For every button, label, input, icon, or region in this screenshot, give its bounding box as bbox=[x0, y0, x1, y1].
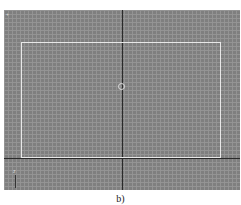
axis-label: z bbox=[13, 168, 16, 174]
camera-target-icon[interactable] bbox=[118, 83, 125, 90]
axis-tripod-icon: z bbox=[13, 172, 19, 188]
safe-frame bbox=[21, 42, 221, 158]
perspective-viewport[interactable]: + z bbox=[4, 10, 240, 190]
viewport-label[interactable]: + bbox=[6, 11, 9, 17]
axis-stem bbox=[15, 175, 16, 188]
figure-caption: b) bbox=[0, 193, 241, 204]
horizontal-axis-line bbox=[4, 158, 240, 159]
